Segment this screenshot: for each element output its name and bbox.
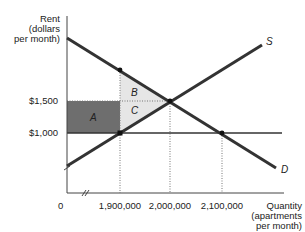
x-axis-label-line-3: per month) [246,221,302,231]
point-demand-1900000 [118,68,123,73]
y-tick-1000: $1,000 [2,128,58,138]
y-axis-label-line-3: per month) [2,34,60,44]
rent-control-chart: Rent (dollars per month) $1,500 $1,000 0… [0,0,305,232]
x-tick-2100000: 2,100,000 [192,201,252,211]
y-axis-label: Rent (dollars per month) [2,14,60,44]
region-b-label: B [131,88,138,98]
x-axis-label: Quantity (apartments per month) [246,201,302,231]
region-a-label: A [90,113,97,123]
point-demand-2100000 [220,131,225,136]
point-equilibrium [168,99,173,104]
y-tick-1500: $1,500 [2,96,58,106]
demand-curve-label: D [281,165,288,175]
x-tick-0: 0 [58,201,63,211]
supply-curve-label: S [266,37,273,47]
x-tick-2000000: 2,000,000 [140,201,200,211]
region-c-label: C [131,106,138,116]
point-supply-1900000 [118,131,123,136]
